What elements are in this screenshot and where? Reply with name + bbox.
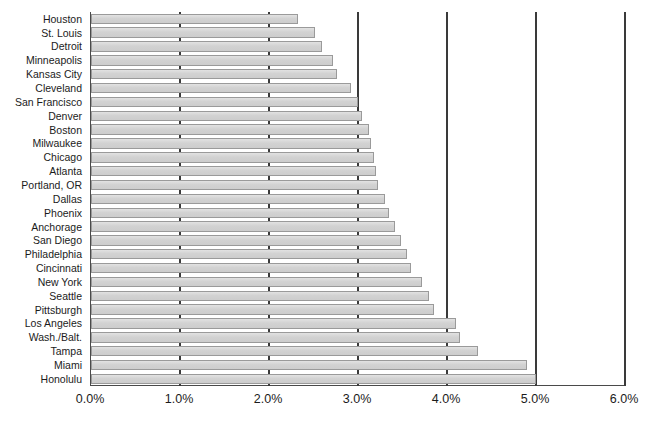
y-axis-label: Kansas City <box>0 69 82 80</box>
bar-row[interactable] <box>91 26 625 40</box>
bar-row[interactable] <box>91 331 625 345</box>
y-axis-label: Chicago <box>0 152 82 163</box>
bar-row[interactable] <box>91 206 625 220</box>
y-axis-label: Pittsburgh <box>0 305 82 316</box>
x-axis-tick-labels: 0.0%1.0%2.0%3.0%4.0%5.0%6.0% <box>90 392 624 412</box>
y-axis-label: Detroit <box>0 41 82 52</box>
y-axis-label: Phoenix <box>0 208 82 219</box>
bar[interactable] <box>91 374 536 384</box>
bar-row[interactable] <box>91 247 625 261</box>
bar[interactable] <box>91 97 358 107</box>
bar-row[interactable] <box>91 289 625 303</box>
y-axis-label: Philadelphia <box>0 249 82 260</box>
bar-row[interactable] <box>91 303 625 317</box>
bar-row[interactable] <box>91 317 625 331</box>
bar[interactable] <box>91 111 362 121</box>
bar[interactable] <box>91 291 429 301</box>
bar-row[interactable] <box>91 95 625 109</box>
y-axis-label: Boston <box>0 125 82 136</box>
chart-title-cropped <box>0 0 646 8</box>
bar[interactable] <box>91 14 298 24</box>
bar-row[interactable] <box>91 220 625 234</box>
y-axis-label: Wash./Balt. <box>0 332 82 343</box>
bar[interactable] <box>91 152 374 162</box>
y-axis-label: Dallas <box>0 194 82 205</box>
bar[interactable] <box>91 180 378 190</box>
y-axis-label: St. Louis <box>0 28 82 39</box>
y-axis-label: Cleveland <box>0 83 82 94</box>
bar[interactable] <box>91 55 333 65</box>
bar[interactable] <box>91 27 315 37</box>
bar-row[interactable] <box>91 358 625 372</box>
y-axis-category-labels: HoustonSt. LouisDetroitMinneapolisKansas… <box>0 12 86 386</box>
y-axis-label: Atlanta <box>0 166 82 177</box>
bar[interactable] <box>91 304 434 314</box>
bar-row[interactable] <box>91 151 625 165</box>
y-axis-label: Anchorage <box>0 222 82 233</box>
y-axis-label: San Francisco <box>0 97 82 108</box>
bar-row[interactable] <box>91 344 625 358</box>
bar[interactable] <box>91 346 478 356</box>
y-axis-label: San Diego <box>0 235 82 246</box>
y-axis-label: Portland, OR <box>0 180 82 191</box>
y-axis-label: Cincinnati <box>0 263 82 274</box>
bar-row[interactable] <box>91 261 625 275</box>
bar[interactable] <box>91 194 385 204</box>
bar[interactable] <box>91 138 371 148</box>
bar-row[interactable] <box>91 81 625 95</box>
bar-row[interactable] <box>91 192 625 206</box>
y-axis-label: New York <box>0 277 82 288</box>
bar[interactable] <box>91 221 395 231</box>
bar-chart: HoustonSt. LouisDetroitMinneapolisKansas… <box>0 0 646 430</box>
bar[interactable] <box>91 263 411 273</box>
x-axis-tick-label: 5.0% <box>521 392 550 406</box>
bar[interactable] <box>91 124 369 134</box>
bar-row[interactable] <box>91 109 625 123</box>
bar-row[interactable] <box>91 178 625 192</box>
bar-row[interactable] <box>91 275 625 289</box>
x-axis-tick-label: 2.0% <box>254 392 283 406</box>
bar[interactable] <box>91 235 401 245</box>
y-axis-label: Denver <box>0 111 82 122</box>
bar-row[interactable] <box>91 54 625 68</box>
x-axis-tick-label: 1.0% <box>165 392 194 406</box>
bar[interactable] <box>91 277 422 287</box>
y-axis-label: Honolulu <box>0 374 82 385</box>
y-axis-label: Miami <box>0 360 82 371</box>
bar-row[interactable] <box>91 137 625 151</box>
bar-row[interactable] <box>91 372 625 386</box>
bar[interactable] <box>91 332 460 342</box>
bar[interactable] <box>91 83 351 93</box>
bar[interactable] <box>91 166 376 176</box>
bar[interactable] <box>91 69 337 79</box>
bar-row[interactable] <box>91 164 625 178</box>
bar-row[interactable] <box>91 234 625 248</box>
bar[interactable] <box>91 249 407 259</box>
y-axis-label: Tampa <box>0 346 82 357</box>
plot-area <box>90 12 624 386</box>
bar[interactable] <box>91 208 389 218</box>
bar-row[interactable] <box>91 67 625 81</box>
bar[interactable] <box>91 360 527 370</box>
bar-row[interactable] <box>91 12 625 26</box>
y-axis-label: Houston <box>0 14 82 25</box>
x-axis-tick-label: 6.0% <box>610 392 639 406</box>
chart-caption-cropped <box>0 422 646 430</box>
bar-row[interactable] <box>91 123 625 137</box>
y-axis-label: Milwaukee <box>0 138 82 149</box>
x-axis-tick-label: 3.0% <box>343 392 372 406</box>
bar-row[interactable] <box>91 40 625 54</box>
bar[interactable] <box>91 318 456 328</box>
y-axis-label: Seattle <box>0 291 82 302</box>
x-axis-tick-label: 4.0% <box>432 392 461 406</box>
y-axis-label: Minneapolis <box>0 55 82 66</box>
bar[interactable] <box>91 41 322 51</box>
x-axis-tick-label: 0.0% <box>76 392 105 406</box>
y-axis-label: Los Angeles <box>0 318 82 329</box>
